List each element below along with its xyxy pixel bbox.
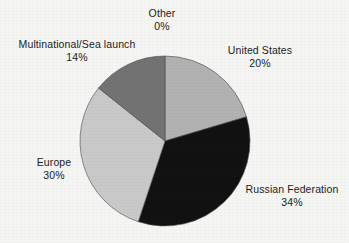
slice-label-russian-federation: Russian Federation 34% bbox=[236, 183, 348, 209]
slice-label-other: Other 0% bbox=[122, 7, 202, 33]
slice-label-multinational-name: Multinational/Sea launch bbox=[2, 38, 152, 51]
slice-label-europe: Europe 30% bbox=[13, 156, 95, 182]
slice-label-europe-name: Europe bbox=[13, 156, 95, 169]
slice-label-russian-federation-value: 34% bbox=[236, 196, 348, 209]
pie-chart: Other 0% Multinational/Sea launch 14% Un… bbox=[0, 0, 349, 243]
slice-label-russian-federation-name: Russian Federation bbox=[236, 183, 348, 196]
slice-label-united-states-value: 20% bbox=[205, 57, 315, 70]
slice-label-united-states: United States 20% bbox=[205, 44, 315, 70]
slice-label-other-value: 0% bbox=[122, 20, 202, 33]
slice-label-multinational-value: 14% bbox=[2, 51, 152, 64]
pie-slice-group bbox=[80, 56, 250, 226]
slice-label-united-states-name: United States bbox=[205, 44, 315, 57]
slice-label-europe-value: 30% bbox=[13, 169, 95, 182]
slice-label-other-name: Other bbox=[122, 7, 202, 20]
slice-label-multinational: Multinational/Sea launch 14% bbox=[2, 38, 152, 64]
